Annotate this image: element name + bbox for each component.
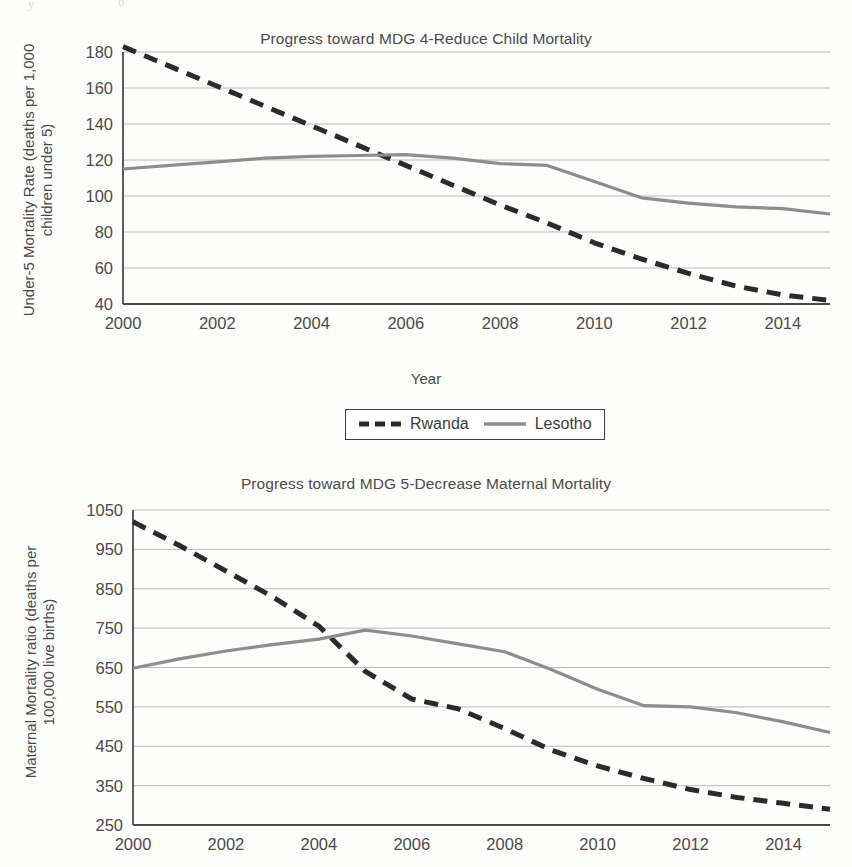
chart-legend[interactable]: Rwanda Lesotho	[345, 409, 605, 440]
y-axis-tick-label: 250	[95, 816, 123, 834]
x-axis-tick-label: 2002	[199, 314, 236, 332]
x-axis-tick-label: 2014	[765, 835, 802, 853]
x-axis-tick-label: 2002	[208, 835, 245, 853]
x-axis-tick-label: 2014	[765, 314, 802, 332]
series-line-lesotho	[123, 155, 830, 214]
plot-area-child: 4060801001201401601802000200220042006200…	[0, 44, 852, 344]
x-axis-tick-label: 2012	[672, 835, 709, 853]
legend-entry-lesotho[interactable]: Lesotho	[483, 415, 592, 433]
x-axis-tick-label: 2004	[301, 835, 338, 853]
y-axis-tick-label: 650	[95, 659, 123, 677]
chart-maternal-mortality: Progress toward MDG 5-Decrease Maternal …	[0, 452, 852, 867]
legend-label-rwanda: Rwanda	[410, 415, 469, 433]
x-axis-tick-label: 2010	[579, 835, 616, 853]
x-axis-tick-label: 2000	[105, 314, 142, 332]
legend-swatch-solid-icon	[483, 418, 527, 430]
y-axis-tick-label: 950	[95, 540, 123, 558]
y-axis-tick-label: 750	[95, 619, 123, 637]
y-axis-tick-label: 350	[95, 777, 123, 795]
x-axis-tick-label: 2006	[393, 835, 430, 853]
x-axis-tick-label: 2012	[670, 314, 707, 332]
x-axis-tick-label: 2010	[576, 314, 613, 332]
x-axis-tick-label: 2008	[486, 835, 523, 853]
y-axis-tick-label: 120	[85, 151, 113, 169]
series-line-rwanda	[133, 522, 830, 809]
series-line-rwanda	[123, 47, 830, 301]
y-axis-tick-label: 100	[85, 187, 113, 205]
y-axis-tick-label: 140	[85, 115, 113, 133]
y-axis-tick-label: 80	[95, 223, 113, 241]
figure-page: y o Progress toward MDG 4-Reduce Child M…	[0, 0, 852, 867]
chart-child-mortality: Progress toward MDG 4-Reduce Child Morta…	[0, 0, 852, 450]
y-axis-tick-label: 160	[85, 79, 113, 97]
y-axis-tick-label: 850	[95, 580, 123, 598]
chart-title-maternal: Progress toward MDG 5-Decrease Maternal …	[0, 475, 852, 493]
y-axis-tick-label: 550	[95, 698, 123, 716]
plot-svg-maternal: 2503504505506507508509501050200020022004…	[0, 500, 852, 867]
legend-entry-rwanda[interactable]: Rwanda	[358, 415, 469, 433]
y-axis-tick-label: 1050	[86, 501, 123, 519]
legend-swatch-dashed-icon	[358, 418, 402, 430]
x-axis-label-child: Year	[0, 370, 852, 387]
y-axis-tick-label: 180	[85, 44, 113, 61]
legend-label-lesotho: Lesotho	[535, 415, 592, 433]
y-axis-tick-label: 450	[95, 737, 123, 755]
y-axis-tick-label: 60	[95, 259, 113, 277]
plot-svg-child: 4060801001201401601802000200220042006200…	[0, 44, 852, 344]
x-axis-tick-label: 2008	[482, 314, 519, 332]
x-axis-tick-label: 2004	[293, 314, 330, 332]
plot-area-maternal: 2503504505506507508509501050200020022004…	[0, 500, 852, 867]
x-axis-tick-label: 2006	[387, 314, 424, 332]
x-axis-tick-label: 2000	[115, 835, 152, 853]
y-axis-tick-label: 40	[95, 295, 113, 313]
